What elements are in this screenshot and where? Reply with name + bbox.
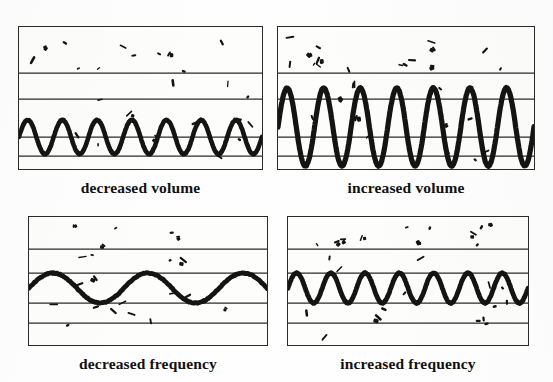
panel-caption-decreased-frequency: decreased frequency bbox=[79, 355, 217, 373]
waveform-canvas-increased-volume bbox=[278, 27, 534, 169]
panel-caption-increased-frequency: increased frequency bbox=[340, 355, 475, 373]
oscilloscope-increased-volume bbox=[277, 26, 535, 170]
oscilloscope-decreased-frequency bbox=[28, 216, 268, 346]
panel-caption-increased-volume: increased volume bbox=[347, 179, 464, 197]
panel-increased-frequency: increased frequency bbox=[287, 216, 529, 373]
waveform-canvas-decreased-frequency bbox=[29, 217, 267, 345]
waveform-canvas-decreased-volume bbox=[19, 27, 262, 169]
waveform-canvas-increased-frequency bbox=[288, 217, 528, 345]
panel-decreased-volume: decreased volume bbox=[18, 26, 263, 197]
panel-caption-decreased-volume: decreased volume bbox=[81, 179, 201, 197]
panel-increased-volume: increased volume bbox=[277, 26, 535, 197]
panel-decreased-frequency: decreased frequency bbox=[28, 216, 268, 373]
sound-wave-figure: decreased volume increased volume decrea… bbox=[0, 0, 553, 382]
oscilloscope-increased-frequency bbox=[287, 216, 529, 346]
oscilloscope-decreased-volume bbox=[18, 26, 263, 170]
